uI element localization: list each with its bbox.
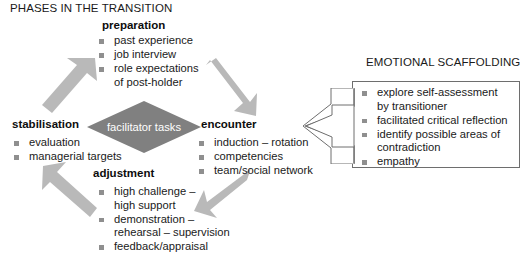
scaffolding-title: EMOTIONAL SCAFFOLDING [366,56,520,68]
phase-list-preparation: past experience job interview role expec… [99,34,199,90]
phase-heading-preparation: preparation [102,19,165,31]
list-item: team/social network [199,164,313,178]
phase-list-encounter: induction – rotation competencies team/s… [199,136,313,178]
list-item: explore self-assessment by transitioner [362,86,522,113]
transition-phases-diagram: PHASES IN THE TRANSITION facilitator tas… [0,0,530,266]
list-item: feedback/appraisal [99,240,230,254]
arrow-down-right-icon [203,57,261,119]
list-item: high challenge – high support [99,185,230,212]
list-item-line1: explore self-assessment [377,86,498,98]
list-item: past experience [99,34,199,48]
phase-heading-adjustment: adjustment [93,167,154,179]
list-item-line1: role expectations [114,62,199,74]
phase-heading-stabilisation: stabilisation [12,118,79,130]
facilitator-tasks-diamond: facilitator tasks [87,101,201,153]
list-item-line1: empathy [377,155,420,167]
list-item-line1: demonstration – [114,213,194,225]
list-item-line2: rehearsal – supervision [114,226,230,240]
list-item: role expectations of post-holder [99,62,199,89]
list-item: induction – rotation [199,136,313,150]
scaffolding-list: explore self-assessment by transitioner … [362,86,522,170]
list-item-line2: of post-holder [114,76,199,90]
list-item-line1: feedback/appraisal [114,240,208,252]
list-item: competencies [199,150,313,164]
list-item-line1: evaluation [29,136,80,148]
list-item-line2: contradiction [377,141,522,155]
facilitator-tasks-label: facilitator tasks [87,101,201,153]
list-item-line1: induction – rotation [214,136,309,148]
list-item-line1: past experience [114,34,193,46]
list-item: demonstration – rehearsal – supervision [99,213,230,240]
list-item: facilitated critical reflection [362,114,522,128]
list-item-line1: identify possible areas of [377,128,500,140]
list-item: job interview [99,48,199,62]
list-item-line1: high challenge – [114,185,196,197]
list-item-line1: team/social network [214,164,313,176]
list-item: identify possible areas of contradiction [362,128,522,155]
arrow-left-hollow-icon [303,88,355,164]
page-title: PHASES IN THE TRANSITION [10,2,172,14]
phase-heading-encounter: encounter [201,118,257,130]
list-item-line1: competencies [214,150,283,162]
list-item-line1: job interview [114,48,176,60]
list-item-line2: by transitioner [377,100,522,114]
list-item-line2: high support [114,199,230,213]
list-item: empathy [362,155,522,169]
list-item-line1: facilitated critical reflection [377,114,508,126]
phase-list-adjustment: high challenge – high support demonstrat… [99,185,230,254]
